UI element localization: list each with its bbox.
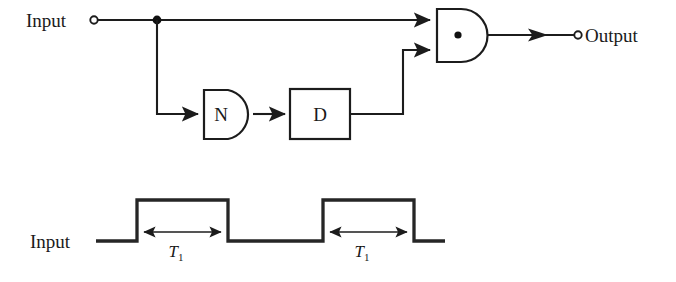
pulse-2-duration-label: T1 [355, 242, 370, 263]
pulse-2-duration-subscript: 1 [364, 251, 370, 263]
circuit-and-waveform-figure: Input N D Output Input [0, 0, 676, 282]
input-terminal-circle [90, 16, 97, 23]
pulse-1-duration-label: T1 [169, 242, 184, 263]
and-gate-center-dot [454, 31, 461, 38]
output-terminal-label: Output [585, 25, 639, 46]
waveform-pulse-train [96, 200, 445, 241]
circuit-diagram: Input N D Output [26, 9, 639, 139]
inverter-gate-label: N [214, 104, 228, 125]
delay-block-label: D [313, 104, 327, 125]
input-terminal-label: Input [26, 10, 67, 31]
wire-branch-to-inverter [157, 20, 198, 114]
pulse-1-duration-subscript: 1 [178, 251, 184, 263]
waveform-signal-label: Input [30, 231, 71, 252]
and-gate-body [437, 9, 488, 62]
wire-delay-to-and-bottom [350, 50, 430, 114]
input-waveform-diagram: Input T1 T1 [30, 200, 445, 263]
output-terminal-circle [574, 31, 581, 38]
